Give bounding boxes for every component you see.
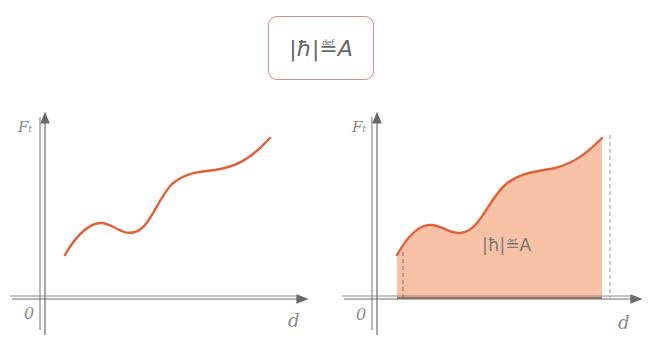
- right-origin-label: 0: [356, 305, 366, 324]
- left-plot: [10, 114, 306, 335]
- right-y-label: Fₜ: [352, 118, 366, 136]
- right-x-label: d: [618, 312, 630, 333]
- left-curve: [65, 138, 270, 255]
- area-label: |ħ|≝A: [482, 235, 531, 255]
- right-plot: [342, 114, 640, 335]
- left-y-label: Fₜ: [18, 118, 32, 136]
- left-origin-label: 0: [24, 304, 34, 323]
- diagram-canvas: [0, 0, 659, 346]
- left-x-label: d: [288, 310, 300, 331]
